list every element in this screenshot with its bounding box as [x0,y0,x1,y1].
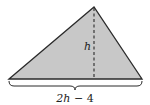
triangle [9,7,142,79]
triangle-diagram: h 2h − 4 [0,0,150,105]
base-label: 2h − 4 [55,92,93,105]
height-label: h [84,40,91,53]
base-brace [9,81,142,90]
